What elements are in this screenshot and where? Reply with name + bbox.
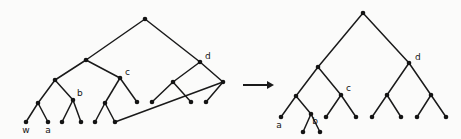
tree-node [71, 98, 76, 103]
tree-node [279, 115, 284, 120]
node-label-d: d [415, 52, 421, 62]
tree-node [150, 100, 155, 105]
tree-node [79, 120, 84, 125]
tree-node [204, 100, 209, 105]
tree-node [93, 120, 98, 125]
node-label-a: a [276, 120, 282, 130]
tree-node [354, 115, 359, 120]
tree-node [84, 58, 89, 63]
tree-node [294, 94, 299, 99]
tree-node [118, 76, 123, 81]
tree-node [316, 65, 321, 70]
tree-node [36, 101, 41, 106]
tree-node [339, 93, 344, 98]
tree-node [429, 93, 434, 98]
tree-node [361, 11, 366, 16]
diagram-canvas: dcbwadcab [0, 0, 461, 139]
tree-node [407, 61, 412, 66]
tree-node [24, 120, 29, 125]
tree-node [399, 115, 404, 120]
node-label-a: a [45, 125, 51, 135]
node-label-b: b [77, 88, 83, 98]
tree-node [318, 130, 323, 135]
node-label-c: c [346, 83, 351, 93]
node-label-b: b [312, 116, 318, 126]
tree-node [198, 60, 203, 65]
tree-node [53, 78, 58, 83]
tree-node [444, 115, 449, 120]
tree-node [301, 130, 306, 135]
tree-node [46, 120, 51, 125]
node-label-d: d [205, 51, 211, 61]
tree-node [370, 115, 375, 120]
tree-node [103, 101, 108, 106]
node-label-c: c [125, 67, 130, 77]
tree-node [113, 120, 118, 125]
tree-node [189, 100, 194, 105]
tree-node [324, 115, 329, 120]
tree-node [143, 17, 148, 22]
figure-background [0, 0, 461, 139]
tree-node [135, 100, 140, 105]
tree-node [415, 115, 420, 120]
tree-node [171, 80, 176, 85]
node-label-w: w [22, 125, 29, 135]
tree-node [60, 120, 65, 125]
tree-node [385, 93, 390, 98]
tree-transformation-figure: dcbwadcab [0, 0, 461, 139]
tree-node [221, 80, 226, 85]
